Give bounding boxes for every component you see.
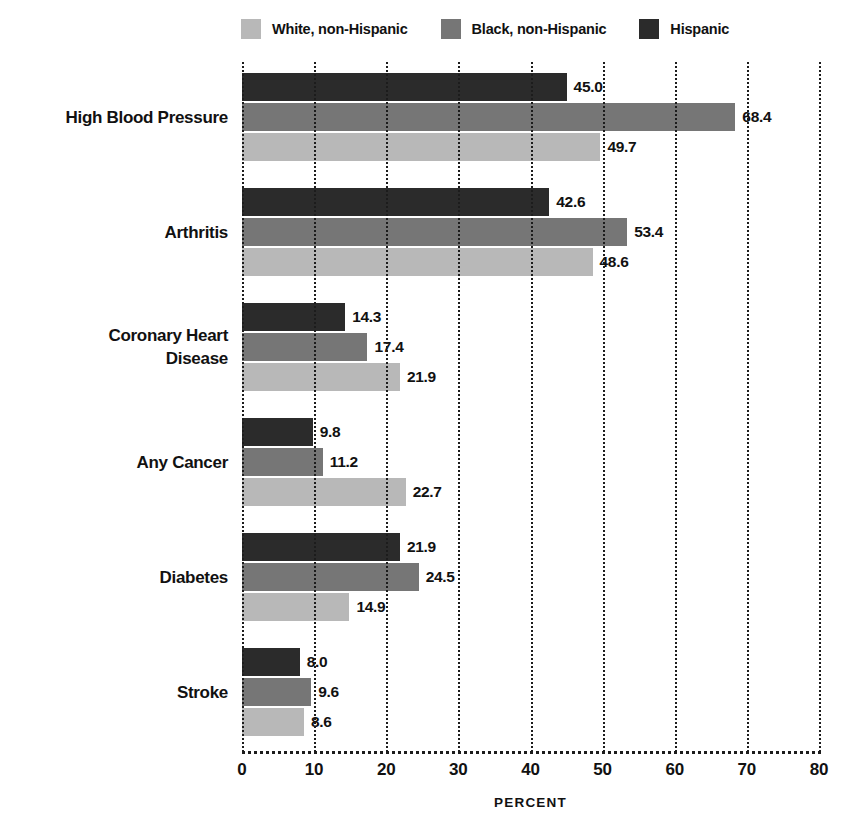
gridline — [603, 62, 605, 752]
gridline — [531, 62, 533, 752]
bar-value-label: 8.0 — [307, 653, 328, 671]
bar-value-label: 9.8 — [320, 423, 341, 441]
gridline — [314, 62, 316, 752]
bar[interactable] — [242, 363, 400, 391]
bar-value-label: 24.5 — [426, 568, 455, 586]
bar[interactable] — [242, 478, 406, 506]
x-tick-label: 40 — [521, 760, 540, 780]
x-tick-label: 70 — [738, 760, 757, 780]
category-label: Diabetes — [4, 566, 228, 589]
gridline — [819, 62, 821, 752]
bar-value-label: 53.4 — [634, 223, 663, 241]
bar[interactable] — [242, 133, 600, 161]
bar-value-label: 22.7 — [413, 483, 442, 501]
bar[interactable] — [242, 418, 313, 446]
legend-label-white: White, non-Hispanic — [272, 21, 408, 37]
bar-value-label: 42.6 — [556, 193, 585, 211]
bar[interactable] — [242, 533, 400, 561]
bar[interactable] — [242, 333, 367, 361]
x-axis-title: PERCENT — [242, 795, 819, 810]
category-label: Arthritis — [4, 221, 228, 244]
gridline — [675, 62, 677, 752]
bar-value-label: 9.6 — [318, 683, 339, 701]
x-tick-label: 10 — [305, 760, 324, 780]
x-axis-ticks: 01020304050607080 — [242, 760, 819, 786]
bar[interactable] — [242, 708, 304, 736]
category-label-line: Diabetes — [4, 566, 228, 589]
category-label-line: Disease — [4, 347, 228, 370]
bar-value-label: 49.7 — [607, 138, 636, 156]
legend-item-white: White, non-Hispanic — [241, 19, 408, 39]
bar[interactable] — [242, 648, 300, 676]
bar[interactable] — [242, 678, 311, 706]
bar-value-label: 45.0 — [574, 78, 603, 96]
legend-label-hispanic: Hispanic — [670, 21, 729, 37]
category-label: Coronary HeartDisease — [4, 324, 228, 370]
category-label: Any Cancer — [4, 451, 228, 474]
gridline — [458, 62, 460, 752]
bar[interactable] — [242, 188, 549, 216]
bar[interactable] — [242, 73, 567, 101]
category-label-line: Arthritis — [4, 221, 228, 244]
bar-value-label: 17.4 — [374, 338, 403, 356]
x-tick-label: 0 — [237, 760, 246, 780]
legend-item-black: Black, non-Hispanic — [441, 19, 607, 39]
bar[interactable] — [242, 448, 323, 476]
legend-label-black: Black, non-Hispanic — [472, 21, 607, 37]
category-label-line: Any Cancer — [4, 451, 228, 474]
bar[interactable] — [242, 218, 627, 246]
category-label: High Blood Pressure — [4, 106, 228, 129]
gridline — [386, 62, 388, 752]
category-label-line: Coronary Heart — [4, 324, 228, 347]
plot-area: 45.068.449.742.653.448.614.317.421.99.81… — [242, 62, 819, 752]
category-label: Stroke — [4, 681, 228, 704]
legend-swatch-white-icon — [241, 19, 261, 39]
x-tick-label: 80 — [810, 760, 829, 780]
bar-value-label: 14.3 — [352, 308, 381, 326]
bar[interactable] — [242, 563, 419, 591]
legend-swatch-black-icon — [441, 19, 461, 39]
bar-value-label: 11.2 — [330, 453, 358, 471]
gridline — [242, 62, 244, 752]
legend-swatch-hispanic-icon — [639, 19, 659, 39]
bar[interactable] — [242, 248, 593, 276]
category-label-line: Stroke — [4, 681, 228, 704]
bar-value-label: 21.9 — [407, 538, 436, 556]
x-tick-label: 20 — [377, 760, 396, 780]
x-axis-baseline — [242, 751, 821, 754]
gridline — [747, 62, 749, 752]
bar[interactable] — [242, 303, 345, 331]
bar[interactable] — [242, 593, 349, 621]
x-tick-label: 60 — [665, 760, 684, 780]
bar-value-label: 14.9 — [356, 598, 385, 616]
x-tick-label: 30 — [449, 760, 468, 780]
x-tick-label: 50 — [593, 760, 612, 780]
category-axis-labels: High Blood PressureArthritisCoronary Hea… — [0, 62, 228, 752]
legend-item-hispanic: Hispanic — [639, 19, 729, 39]
category-label-line: High Blood Pressure — [4, 106, 228, 129]
chart-legend: White, non-Hispanic Black, non-Hispanic … — [241, 17, 762, 41]
bar-value-label: 21.9 — [407, 368, 436, 386]
